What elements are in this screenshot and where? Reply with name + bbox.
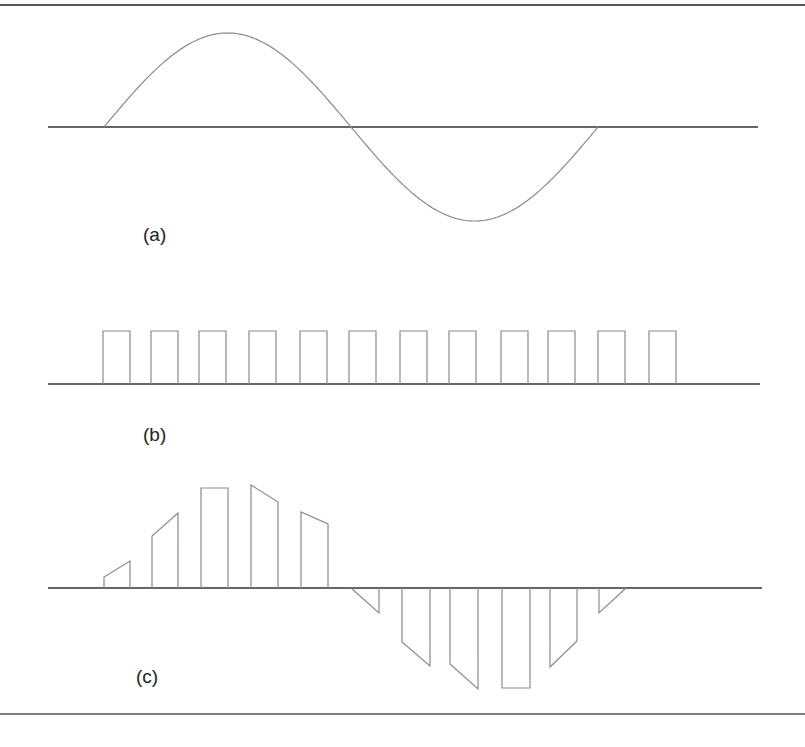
sampling-pulse <box>349 331 376 384</box>
pulse-train <box>103 331 676 384</box>
pam-pulse <box>402 588 430 666</box>
panel-a <box>48 33 758 221</box>
sampling-pulse <box>649 331 676 384</box>
pam-pulse <box>251 485 278 588</box>
pam-pulse <box>550 588 577 667</box>
sampling-pulse <box>548 331 575 384</box>
sampling-pulse <box>199 331 226 384</box>
sampling-pulse <box>449 331 476 384</box>
panel-b <box>48 331 760 384</box>
pam-pulse <box>104 561 130 588</box>
pam-pulse <box>201 488 228 588</box>
pam-pulse <box>599 588 626 613</box>
sampling-pulse <box>598 331 625 384</box>
panel-a-label: (a) <box>143 224 166 246</box>
pam-pulse <box>502 588 530 688</box>
pam-pulses <box>104 485 626 689</box>
sampling-pulse <box>103 331 130 384</box>
panel-c <box>48 485 762 689</box>
sampling-pulse <box>501 331 528 384</box>
sampling-pulse <box>400 331 427 384</box>
pam-pulse <box>351 588 379 613</box>
sampling-pulse <box>151 331 178 384</box>
pam-pulse <box>152 513 178 588</box>
panel-b-label: (b) <box>143 424 166 446</box>
sampling-pulse <box>300 331 327 384</box>
pam-pulse <box>450 588 478 689</box>
sampling-diagram <box>0 0 805 747</box>
pam-pulse <box>301 512 328 588</box>
sampling-pulse <box>249 331 276 384</box>
panel-c-label: (c) <box>136 666 158 688</box>
